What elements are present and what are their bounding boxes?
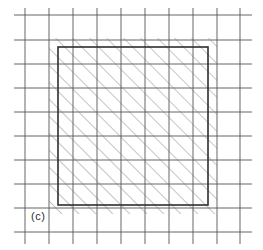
figure-panel-c: (c) <box>0 0 263 250</box>
panel-label-c: (c) <box>31 210 45 222</box>
hatched-region-fill <box>49 38 217 214</box>
